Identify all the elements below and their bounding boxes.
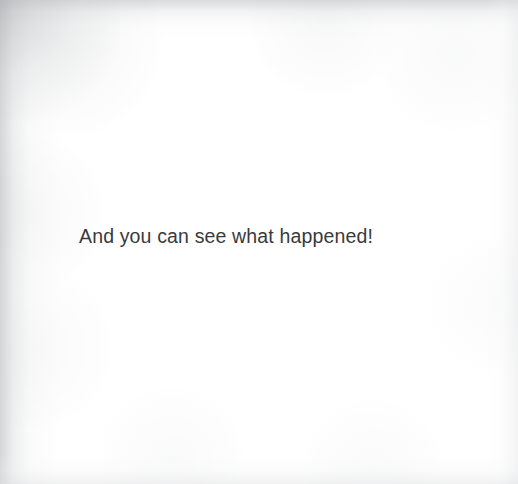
body-text-line: And you can see what happened!: [79, 224, 373, 248]
page-edge-shadow-top: [0, 0, 518, 40]
scanned-page: And you can see what happened!: [0, 0, 518, 484]
page-edge-shadow-bottom: [0, 454, 518, 484]
page-edge-shadow-right: [484, 0, 518, 484]
page-corner-shadow-top-left: [0, 0, 120, 120]
page-edge-shadow-left: [0, 0, 60, 484]
